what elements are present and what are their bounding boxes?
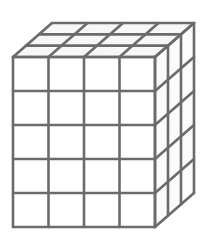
cuboid-diagram: [0, 0, 203, 232]
unit-cube-prism-figure: [0, 0, 203, 232]
